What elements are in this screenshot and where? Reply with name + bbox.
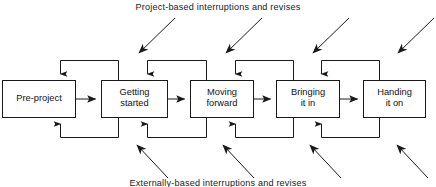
externally-based-interruption-arrows <box>137 145 428 178</box>
project-interruption-arrow-1 <box>139 18 175 53</box>
project-interruption-arrow-3 <box>313 18 349 53</box>
bottom-feedback-loops <box>61 118 380 138</box>
stage-boxes <box>3 81 426 118</box>
stage-box-moving-forward[interactable] <box>191 81 254 118</box>
bottom-feedback-loop-4 <box>322 118 380 138</box>
project-interruption-arrow-2 <box>226 18 262 53</box>
bottom-feedback-loop-2 <box>148 118 207 138</box>
bottom-feedback-loop-3 <box>236 118 294 138</box>
bottom-feedback-loop-1 <box>61 118 119 138</box>
project-interruption-arrow-4 <box>398 18 434 53</box>
top-feedback-loop-3 <box>236 61 294 81</box>
top-feedback-loop-2 <box>148 61 207 81</box>
process-flow-diagram: Project-based interruptions and revises <box>0 0 436 187</box>
diagram-canvas <box>0 0 436 187</box>
top-feedback-loop-1 <box>61 61 119 81</box>
external-interruption-arrow-4 <box>397 145 428 178</box>
external-interruption-arrow-2 <box>223 145 254 178</box>
external-interruption-arrow-1 <box>137 145 168 178</box>
project-based-interruption-arrows <box>139 18 434 53</box>
top-feedback-loop-4 <box>322 61 380 81</box>
stage-box-getting-started[interactable] <box>102 81 168 118</box>
stage-box-pre-project[interactable] <box>3 81 76 118</box>
top-feedback-loops <box>61 61 380 81</box>
stage-box-handing-it-on[interactable] <box>364 81 426 118</box>
externally-based-interruptions-label: Externally-based interruptions and revis… <box>0 178 436 187</box>
external-interruption-arrow-3 <box>310 145 341 178</box>
stage-box-bringing-it-in[interactable] <box>277 81 340 118</box>
